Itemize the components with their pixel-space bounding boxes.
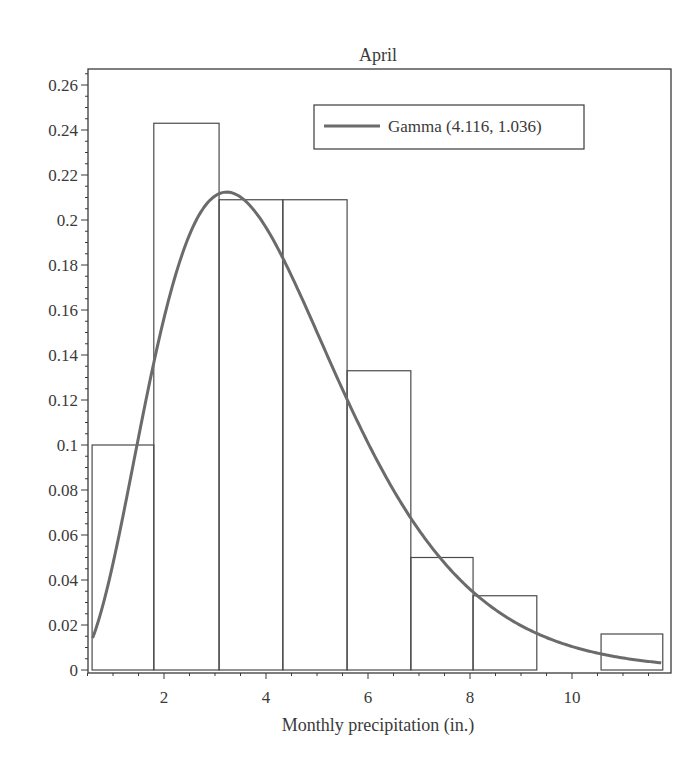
y-tick-label: 0.24 (48, 121, 78, 140)
x-tick-label: 10 (564, 688, 581, 707)
y-tick-label: 0.06 (48, 526, 78, 545)
histogram-bars (92, 123, 663, 670)
y-tick-label: 0.04 (48, 571, 78, 590)
y-tick-label: 0.02 (48, 616, 78, 635)
histogram-bar (601, 634, 663, 670)
x-tick-label: 2 (160, 688, 169, 707)
y-tick-label: 0.1 (57, 436, 78, 455)
histogram-bar (219, 200, 283, 670)
gamma-density-curve (93, 192, 662, 663)
x-tick-label: 6 (364, 688, 373, 707)
histogram-bar (473, 596, 537, 670)
y-tick-label: 0.14 (48, 346, 78, 365)
y-tick-label: 0.16 (48, 301, 78, 320)
histogram-bar (283, 200, 347, 670)
legend: Gamma (4.116, 1.036) (314, 105, 584, 149)
histogram-bar (411, 558, 473, 671)
chart-title: April (359, 45, 397, 65)
x-axis: 246810 (88, 673, 649, 707)
histogram-bar (92, 445, 154, 670)
y-tick-label: 0.12 (48, 391, 78, 410)
y-tick-label: 0.26 (48, 76, 78, 95)
histogram-chart: April 00.020.040.060.080.10.120.140.160.… (0, 0, 700, 778)
y-tick-label: 0.18 (48, 256, 78, 275)
y-tick-label: 0.2 (57, 211, 78, 230)
y-tick-label: 0 (70, 661, 79, 680)
y-axis: 00.020.040.060.080.10.120.140.160.180.20… (48, 74, 88, 680)
x-tick-label: 4 (262, 688, 271, 707)
y-tick-label: 0.22 (48, 166, 78, 185)
x-tick-label: 8 (466, 688, 475, 707)
y-tick-label: 0.08 (48, 481, 78, 500)
histogram-bar (154, 123, 219, 670)
histogram-bar (347, 371, 411, 670)
x-axis-title: Monthly precipitation (in.) (282, 715, 474, 736)
legend-label: Gamma (4.116, 1.036) (388, 117, 542, 136)
